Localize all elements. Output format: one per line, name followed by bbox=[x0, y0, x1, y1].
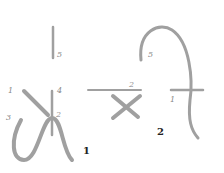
stroke-number-4: 4 bbox=[57, 86, 62, 95]
figure-label-1: 1 bbox=[83, 145, 90, 156]
stroke-number-2b: 2 bbox=[129, 80, 134, 89]
stroke-number-2: 2 bbox=[56, 110, 61, 119]
stroke-number-5: 5 bbox=[57, 50, 62, 59]
stroke-number-5b: 5 bbox=[148, 50, 153, 59]
figure-label-2: 2 bbox=[157, 126, 164, 137]
stroke-diagram: 5 1 4 2 3 1 2 5 1 2 bbox=[0, 0, 224, 173]
strokes-drawing bbox=[0, 0, 224, 173]
stroke-3-2 bbox=[14, 118, 72, 160]
stroke-number-3: 3 bbox=[6, 113, 11, 122]
stroke-5-hook bbox=[141, 27, 198, 138]
stroke-number-1b: 1 bbox=[170, 95, 175, 104]
stroke-number-1: 1 bbox=[8, 86, 13, 95]
stroke-1 bbox=[24, 91, 48, 115]
